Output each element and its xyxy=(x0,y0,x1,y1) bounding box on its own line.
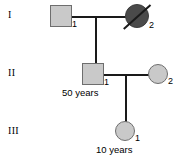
mating-line-gen1 xyxy=(71,16,126,18)
individual-iii-1-id-label: 1 xyxy=(135,134,140,143)
descent-line-gen1-to-gen2 xyxy=(95,16,97,65)
individual-i-2-id-label: 2 xyxy=(149,21,154,30)
individual-ii-2-female-symbol[interactable] xyxy=(148,64,168,84)
individual-ii-2-id-label: 2 xyxy=(168,77,173,86)
descent-line-gen2-to-gen3 xyxy=(125,74,127,122)
individual-i-1-male-symbol[interactable] xyxy=(50,5,72,27)
individual-i-1-id-label: 1 xyxy=(72,20,77,29)
generation-label-iii: III xyxy=(8,126,19,136)
generation-label-ii: II xyxy=(8,68,15,78)
individual-ii-1-age-label: 50 years xyxy=(62,88,98,98)
individual-iii-1-age-label: 10 years xyxy=(96,145,132,155)
individual-iii-1-female-symbol[interactable] xyxy=(115,121,135,141)
individual-ii-1-id-label: 1 xyxy=(104,78,109,87)
generation-label-i: I xyxy=(8,10,12,20)
pedigree-chart: I II III 1 2 1 50 years 2 1 10 years xyxy=(0,0,185,157)
individual-ii-1-male-symbol[interactable] xyxy=(82,63,104,85)
